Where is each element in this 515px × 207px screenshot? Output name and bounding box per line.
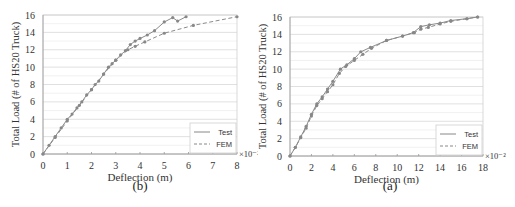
- legend-label: FEM: [462, 142, 478, 151]
- x-tick-label: 2: [309, 162, 314, 173]
- data-marker: [439, 22, 442, 25]
- y-tick-label: 8: [277, 81, 282, 92]
- data-marker: [102, 72, 105, 75]
- caption-b: (b): [120, 178, 160, 194]
- x-tick-label: 6: [186, 160, 191, 171]
- x-tick-label: 2: [89, 160, 94, 171]
- data-marker: [176, 19, 179, 22]
- y-tick-label: 10: [25, 62, 35, 73]
- series-line-test: [43, 17, 186, 154]
- legend-label: Test: [464, 130, 479, 139]
- data-marker: [385, 39, 388, 42]
- data-marker: [427, 26, 430, 29]
- y-tick-label: 14: [25, 27, 35, 38]
- data-marker: [90, 88, 93, 91]
- data-marker: [361, 53, 364, 56]
- y-tick-label: 4: [30, 114, 35, 125]
- chart-panel-a: 0246810121416024681012141618×10⁻²Deflect…: [257, 0, 515, 207]
- x-tick-label: 0: [41, 160, 46, 171]
- data-marker: [476, 15, 479, 18]
- chart-b-plot: 0246810121416012345678×10⁻²Deflection (m…: [0, 0, 258, 207]
- x-tick-label: 14: [435, 162, 445, 173]
- x-multiplier: ×10⁻²: [239, 149, 258, 159]
- data-marker: [129, 43, 132, 46]
- legend-label: FEM: [216, 140, 232, 149]
- y-tick-label: 0: [30, 149, 35, 160]
- x-multiplier: ×10⁻²: [485, 151, 506, 161]
- data-marker: [344, 65, 347, 68]
- data-marker: [171, 16, 174, 19]
- data-marker: [315, 104, 318, 107]
- data-marker: [134, 39, 137, 42]
- x-tick-label: 12: [414, 162, 424, 173]
- data-marker: [353, 59, 356, 62]
- legend: TestFEM: [436, 125, 482, 155]
- data-marker: [66, 119, 69, 122]
- data-marker: [134, 45, 137, 48]
- y-tick-label: 0: [277, 151, 282, 162]
- data-marker: [288, 154, 291, 157]
- data-marker: [54, 136, 57, 139]
- data-marker: [60, 126, 63, 129]
- data-marker: [294, 146, 297, 149]
- data-marker: [304, 127, 307, 130]
- x-tick-label: 1: [65, 160, 70, 171]
- data-marker: [235, 15, 238, 18]
- x-tick-label: 8: [373, 162, 378, 173]
- data-marker: [339, 68, 342, 71]
- y-axis-label: Total Load (# of HS20 Truck): [257, 23, 269, 149]
- y-axis-label: Total Load (# of HS20 Truck): [10, 21, 22, 147]
- chart-a-plot: 0246810121416024681012141618×10⁻²Deflect…: [257, 0, 515, 207]
- x-tick-label: 8: [235, 160, 240, 171]
- data-marker: [153, 29, 156, 32]
- data-marker: [143, 40, 146, 43]
- y-tick-label: 12: [25, 44, 35, 55]
- y-tick-label: 2: [277, 133, 282, 144]
- legend-label: Test: [218, 128, 233, 137]
- data-marker: [338, 72, 341, 75]
- x-tick-label: 7: [210, 160, 215, 171]
- y-tick-label: 14: [272, 29, 282, 40]
- y-tick-label: 12: [272, 46, 282, 57]
- y-tick-label: 16: [25, 10, 35, 21]
- y-tick-label: 2: [30, 131, 35, 142]
- caption-a: (a): [370, 178, 410, 194]
- data-marker: [419, 28, 422, 31]
- data-marker: [299, 136, 302, 139]
- data-marker: [401, 35, 404, 38]
- data-marker: [465, 17, 468, 20]
- data-marker: [359, 50, 362, 53]
- data-marker: [163, 32, 166, 35]
- x-tick-label: 4: [138, 160, 143, 171]
- data-marker: [126, 48, 129, 51]
- x-tick-label: 6: [352, 162, 357, 173]
- y-tick-label: 10: [272, 64, 282, 75]
- data-marker: [138, 37, 141, 40]
- data-marker: [78, 104, 81, 107]
- data-marker: [310, 114, 313, 117]
- data-marker: [114, 59, 117, 62]
- y-tick-label: 16: [272, 12, 282, 23]
- x-tick-label: 5: [162, 160, 167, 171]
- x-tick-label: 3: [113, 160, 118, 171]
- x-tick-label: 16: [457, 162, 467, 173]
- legend: TestFEM: [190, 123, 236, 153]
- data-marker: [370, 47, 373, 50]
- y-tick-label: 6: [277, 98, 282, 109]
- x-tick-label: 18: [478, 162, 488, 173]
- data-marker: [163, 20, 166, 23]
- data-marker: [184, 15, 187, 18]
- data-marker: [41, 152, 44, 155]
- data-marker: [326, 90, 329, 93]
- data-marker: [413, 31, 416, 34]
- x-tick-label: 0: [288, 162, 293, 173]
- chart-panel-b: 0246810121416012345678×10⁻²Deflection (m…: [0, 0, 258, 207]
- x-tick-label: 10: [392, 162, 402, 173]
- x-tick-label: 4: [330, 162, 335, 173]
- y-tick-label: 6: [30, 96, 35, 107]
- data-marker: [146, 33, 149, 36]
- data-marker: [331, 83, 334, 86]
- data-marker: [449, 20, 452, 23]
- y-tick-label: 8: [30, 79, 35, 90]
- data-marker: [321, 97, 324, 100]
